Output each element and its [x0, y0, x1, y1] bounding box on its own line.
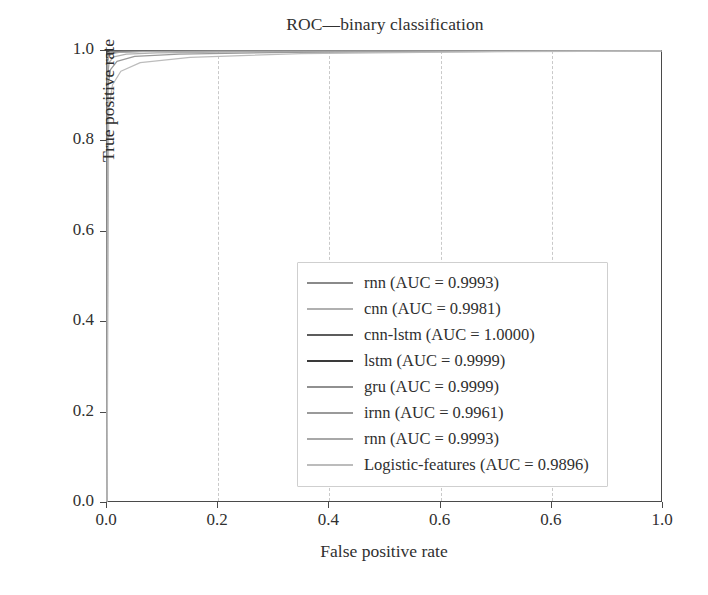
y-tick-label: 0.8 — [26, 129, 94, 149]
x-axis-label: False positive rate — [106, 541, 662, 562]
x-tick-mark — [662, 502, 663, 508]
x-tick-mark — [328, 502, 329, 508]
legend-label: cnn (AUC = 0.9981) — [364, 299, 501, 319]
legend-item: lstm (AUC = 0.9999) — [307, 348, 598, 374]
legend-line-swatch — [307, 412, 353, 414]
legend-item: cnn (AUC = 0.9981) — [307, 296, 598, 322]
y-tick-label: 0.0 — [26, 491, 94, 511]
y-tick-mark — [100, 412, 106, 413]
y-tick-label: 0.4 — [26, 310, 94, 330]
x-tick-label: 0.2 — [182, 510, 252, 530]
y-axis-label: True positive rate — [98, 0, 119, 286]
legend-label: cnn-lstm (AUC = 1.0000) — [364, 325, 535, 345]
legend-label: lstm (AUC = 0.9999) — [364, 351, 505, 371]
legend-label: rnn (AUC = 0.9993) — [364, 429, 499, 449]
legend-item: gru (AUC = 0.9999) — [307, 374, 598, 400]
legend-line-swatch — [307, 360, 353, 362]
legend-label: rnn (AUC = 0.9993) — [364, 273, 499, 293]
x-tick-mark — [551, 502, 552, 508]
legend-item: Logistic-features (AUC = 0.9896) — [307, 452, 598, 478]
legend-line-swatch — [307, 308, 353, 310]
legend-item: rnn (AUC = 0.9993) — [307, 426, 598, 452]
y-tick-label: 0.6 — [26, 220, 94, 240]
chart-title: ROC—binary classification — [100, 14, 670, 35]
x-tick-label: 0.6 — [516, 510, 586, 530]
legend-line-swatch — [307, 464, 353, 466]
x-tick-label: 0.0 — [71, 510, 141, 530]
legend-item: rnn (AUC = 0.9993) — [307, 270, 598, 296]
legend-item: irnn (AUC = 0.9961) — [307, 400, 598, 426]
legend-line-swatch — [307, 334, 353, 336]
x-tick-label: 0.4 — [293, 510, 363, 530]
legend-item: cnn-lstm (AUC = 1.0000) — [307, 322, 598, 348]
legend-line-swatch — [307, 386, 353, 388]
roc-chart-figure: ROC—binary classification 0.00.20.40.60.… — [0, 0, 708, 595]
x-tick-mark — [440, 502, 441, 508]
legend-line-swatch — [307, 438, 353, 440]
legend-label: irnn (AUC = 0.9961) — [364, 403, 503, 423]
legend-label: Logistic-features (AUC = 0.9896) — [364, 455, 589, 475]
x-tick-mark — [106, 502, 107, 508]
y-tick-mark — [100, 502, 106, 503]
legend-line-swatch — [307, 282, 353, 284]
y-tick-mark — [100, 321, 106, 322]
x-tick-label: 1.0 — [627, 510, 697, 530]
legend-label: gru (AUC = 0.9999) — [364, 377, 499, 397]
x-tick-label: 0.6 — [405, 510, 475, 530]
y-tick-label: 1.0 — [26, 39, 94, 59]
x-tick-mark — [217, 502, 218, 508]
chart-legend: rnn (AUC = 0.9993)cnn (AUC = 0.9981)cnn-… — [297, 262, 608, 487]
y-tick-label: 0.2 — [26, 401, 94, 421]
